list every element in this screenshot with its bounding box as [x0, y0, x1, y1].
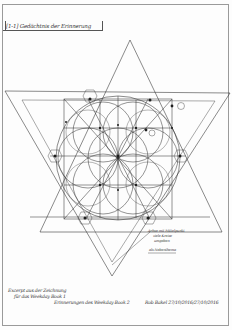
annotation-line-4: als Nebenthema: [149, 248, 176, 252]
geometric-drawing: [0, 0, 232, 330]
paper-sheet: [1-1] Gedächtnis der Erinnerung Achse mi…: [0, 0, 232, 330]
annotation-line-3: umgeben: [154, 239, 170, 243]
header-underline: [3, 30, 103, 31]
downward-triangle: [5, 91, 230, 276]
caption-line-3: Erinnerungen des Weekday Book 2: [54, 300, 130, 305]
page-header: [1-1] Gedächtnis der Erinnerung: [6, 23, 91, 29]
caption-line-1: Excerpt aus der Zeichnung: [8, 288, 66, 293]
annotation-line-1: Achse mit Mittelpunkt: [148, 229, 185, 233]
annotation-line-2: viele Kreise: [153, 234, 172, 238]
signature: Rob Bakel 27/10/2016/27/10/2016: [145, 300, 218, 305]
caption-line-2: für das Weekday Book 1: [14, 294, 66, 299]
